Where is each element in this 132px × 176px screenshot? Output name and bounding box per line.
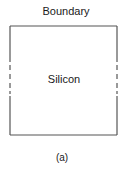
figure-caption: (a) [56,152,68,164]
silicon-box [0,0,132,176]
silicon-region-label: Silicon [48,73,80,85]
